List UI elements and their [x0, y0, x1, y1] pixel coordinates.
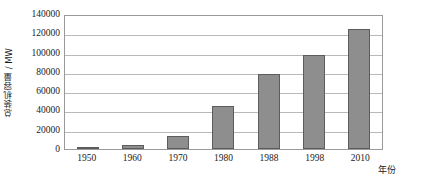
bar[interactable] [258, 74, 280, 149]
x-tick-label: 1980 [201, 151, 247, 165]
bar-slot [291, 16, 336, 149]
bar-slot [337, 16, 382, 149]
plot-area [64, 15, 383, 150]
x-axis-tick-labels: 1950196019701980198819982010 [64, 151, 383, 165]
bar-slot [110, 16, 155, 149]
x-tick-label: 1988 [246, 151, 292, 165]
x-tick-label: 1960 [110, 151, 156, 165]
bar[interactable] [167, 136, 189, 149]
x-axis-title: 年份 [378, 166, 396, 175]
x-tick-label: 1998 [292, 151, 338, 165]
x-tick-label: 1970 [155, 151, 201, 165]
bar[interactable] [77, 147, 99, 149]
y-tick-label: 40000 [36, 107, 60, 117]
y-tick-label: 100000 [32, 49, 61, 59]
y-tick-label: 120000 [32, 30, 61, 40]
bar-slot [156, 16, 201, 149]
y-tick-label: 140000 [32, 10, 61, 20]
y-axis-tick-labels: 020000400006000080000100000120000140000 [14, 15, 63, 150]
bar[interactable] [212, 106, 234, 149]
bar[interactable] [348, 29, 370, 149]
bar[interactable] [303, 55, 325, 150]
bar-chart: 总装机容量 / MW 02000040000600008000010000012… [0, 0, 424, 186]
x-tick-label: 2010 [337, 151, 383, 165]
y-tick-label: 80000 [36, 68, 60, 78]
bar-slot [246, 16, 291, 149]
y-tick-label: 0 [55, 145, 60, 155]
bar-slot [201, 16, 246, 149]
bars-layer [65, 16, 382, 149]
y-tick-label: 20000 [36, 126, 60, 136]
bar-slot [65, 16, 110, 149]
x-tick-label: 1950 [64, 151, 110, 165]
y-tick-label: 60000 [36, 87, 60, 97]
bar[interactable] [122, 145, 144, 149]
